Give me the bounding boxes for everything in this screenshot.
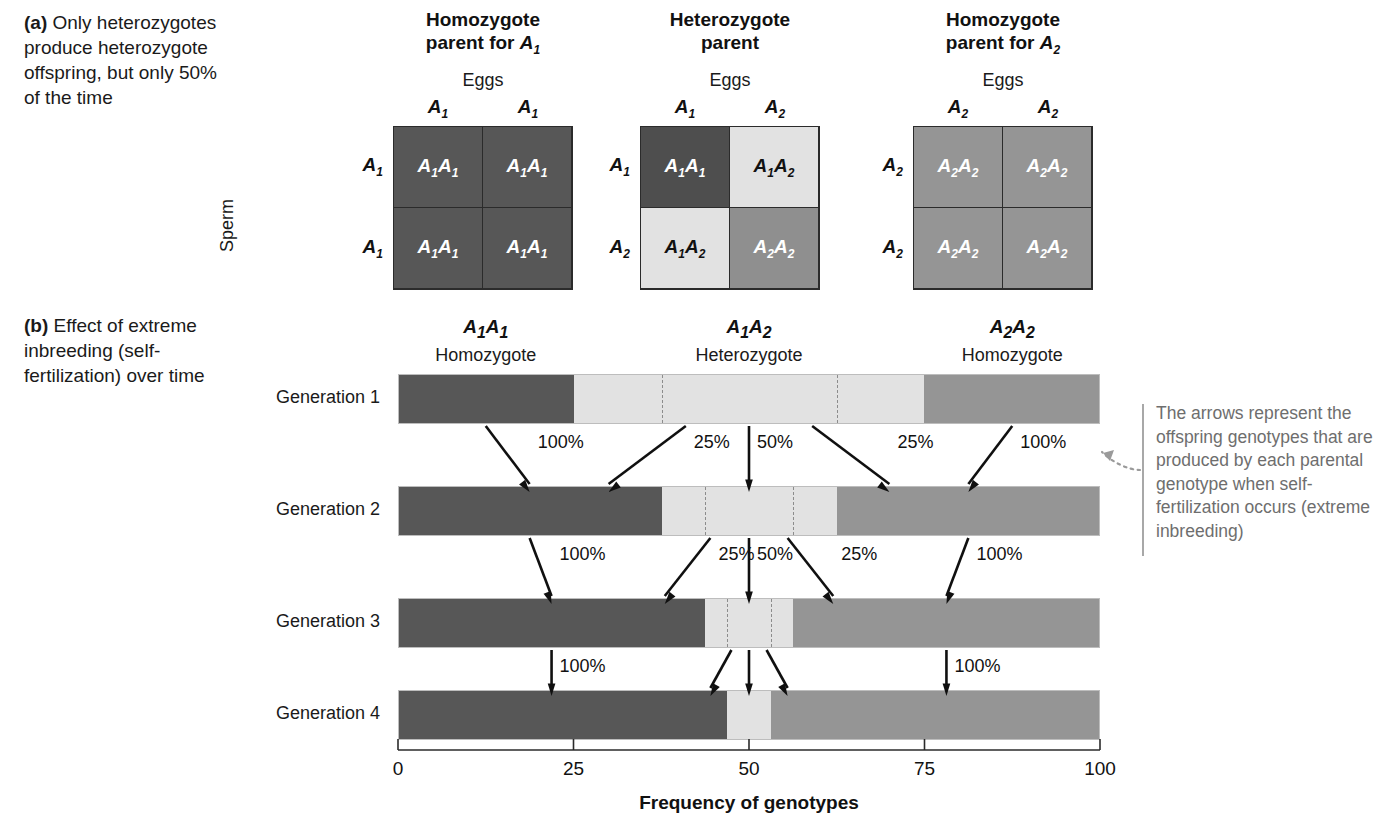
segment-divider [662, 375, 663, 423]
punnett-title-line2: parent for A2 [858, 31, 1148, 62]
transition-percent-label: 100% [976, 544, 1022, 565]
generation-label-3: Generation 3 [190, 611, 380, 632]
transition-arrow-line [486, 426, 530, 484]
punnett-row-header-2-2: A2 [588, 236, 630, 261]
segment-divider [837, 375, 838, 423]
punnett-cell: A1A1 [393, 126, 483, 208]
x-axis-tick-label-100: 100 [1060, 758, 1140, 780]
transition-arrow-line [767, 650, 788, 688]
x-axis-title: Frequency of genotypes [398, 792, 1100, 814]
genotype-header-zygosity: Heterozygote [639, 344, 859, 366]
bar-segment [837, 487, 1100, 535]
transition-percent-label: 25% [897, 432, 933, 453]
genotype-header-2: A1A2Heterozygote [639, 316, 859, 366]
punnett-col-header-2-1: A1 [640, 96, 730, 121]
transition-percent-label: 100% [954, 656, 1000, 677]
punnett-col-header-3-2: A2 [1003, 96, 1093, 121]
punnett-title-line2: parent [585, 31, 875, 54]
punnett-title-2: Heterozygoteparent [585, 8, 875, 54]
genotype-header-zygosity: Homozygote [902, 344, 1122, 366]
bar-segment [399, 691, 727, 739]
punnett-cell: A2A2 [913, 207, 1003, 289]
punnett-row-header-3-1: A2 [861, 154, 903, 179]
bar-segment [705, 599, 793, 647]
eggs-label-1: Eggs [393, 70, 573, 91]
punnett-cell: A1A2 [729, 126, 819, 208]
punnett-row-header-3-2: A2 [861, 236, 903, 261]
eggs-label-3: Eggs [913, 70, 1093, 91]
transition-percent-label: 50% [757, 544, 793, 565]
punnett-cell: A1A1 [482, 207, 572, 289]
transition-arrow-line [665, 538, 711, 596]
punnett-title-line1: Heterozygote [585, 8, 875, 31]
x-axis-tick-label-50: 50 [709, 758, 789, 780]
punnett-col-header-3-1: A2 [913, 96, 1003, 121]
panel-a-letter: (a) [24, 12, 47, 33]
punnett-title-line1: Homozygote [858, 8, 1148, 31]
panel-b-caption-text: Effect of extreme inbreeding (self-ferti… [24, 315, 205, 386]
punnett-col-header-2-2: A2 [730, 96, 820, 121]
bar-segment [793, 599, 1099, 647]
sperm-axis-label-wrap: Sperm [215, 185, 239, 265]
sperm-axis-label: Sperm [217, 186, 238, 266]
panel-a-caption: (a) Only heterozygotes produce heterozyg… [24, 10, 224, 110]
genotype-header-3: A2A2Homozygote [902, 316, 1122, 366]
transition-percent-label: 50% [757, 432, 793, 453]
punnett-col-header-1-1: A1 [393, 96, 483, 121]
bar-segment [399, 599, 705, 647]
genotype-header-allele: A2A2 [902, 316, 1122, 344]
eggs-label-2: Eggs [640, 70, 820, 91]
transition-arrow-line [946, 538, 968, 596]
bar-segment [399, 375, 574, 423]
punnett-col-header-1-2: A1 [483, 96, 573, 121]
genotype-header-zygosity: Homozygote [376, 344, 596, 366]
punnett-cell: A2A2 [1002, 207, 1092, 289]
x-axis-tick-label-25: 25 [534, 758, 614, 780]
panel-b-letter: (b) [24, 315, 48, 336]
transition-arrow-line [710, 650, 731, 688]
generation-label-4: Generation 4 [190, 703, 380, 724]
segment-divider [771, 599, 772, 647]
genotype-header-allele: A1A2 [639, 316, 859, 344]
bar-segment [662, 487, 837, 535]
punnett-row-header-1-1: A1 [341, 154, 383, 179]
punnett-cell: A1A1 [393, 207, 483, 289]
transition-arrow-line [530, 538, 552, 596]
bar-segment [399, 487, 662, 535]
punnett-grid-3: A2A2A2A2A2A2A2A2 [913, 126, 1093, 290]
generation-label-2: Generation 2 [190, 499, 380, 520]
punnett-cell: A2A2 [729, 207, 819, 289]
x-axis-tick-label-0: 0 [358, 758, 438, 780]
punnett-row-header-2-1: A1 [588, 154, 630, 179]
punnett-grid-2: A1A1A1A2A1A2A2A2 [640, 126, 820, 290]
punnett-cell: A2A2 [913, 126, 1003, 208]
punnett-cell: A1A2 [640, 207, 730, 289]
generation-bar-1 [398, 374, 1100, 424]
annotation-rule [1142, 404, 1144, 556]
punnett-title-3: Homozygoteparent for A2 [858, 8, 1148, 62]
transition-arrow-line [968, 426, 1012, 484]
segment-divider [727, 599, 728, 647]
transition-percent-label: 100% [560, 544, 606, 565]
generation-label-1: Generation 1 [190, 387, 380, 408]
generation-bar-3 [398, 598, 1100, 648]
transition-percent-label: 100% [1020, 432, 1066, 453]
transition-arrow-line [609, 426, 686, 484]
generation-bar-4 [398, 690, 1100, 740]
bar-segment [574, 375, 924, 423]
panel-a-caption-text: Only heterozygotes produce heterozygote … [24, 12, 217, 108]
bar-segment [727, 691, 771, 739]
panel-b-caption: (b) Effect of extreme inbreeding (self-f… [24, 313, 224, 388]
punnett-cell: A1A1 [482, 126, 572, 208]
x-axis-tick-label-75: 75 [885, 758, 965, 780]
figure-canvas: (a) Only heterozygotes produce heterozyg… [0, 0, 1399, 826]
transition-percent-label: 25% [694, 432, 730, 453]
transition-percent-label: 100% [560, 656, 606, 677]
annotation-text: The arrows represent the offspring genot… [1156, 402, 1392, 543]
segment-divider [793, 487, 794, 535]
bar-segment [924, 375, 1099, 423]
genotype-header-1: A1A1Homozygote [376, 316, 596, 366]
genotype-header-allele: A1A1 [376, 316, 596, 344]
punnett-row-header-1-2: A1 [341, 236, 383, 261]
generation-bar-2 [398, 486, 1100, 536]
